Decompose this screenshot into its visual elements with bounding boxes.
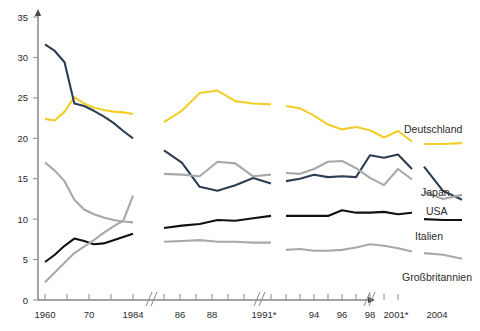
series-line-italien-seg3 (424, 219, 462, 220)
chart-canvas: 0 5 10 15 20 25 30 35 (0, 0, 480, 331)
series-line-usa-seg2 (286, 161, 412, 185)
series-line-usa-seg1 (164, 162, 271, 177)
series-line-grobritannien-seg3 (424, 253, 462, 259)
series-label-deutschland: Deutschland (404, 123, 463, 135)
y-tick-label-20: 20 (17, 133, 28, 144)
y-tick-label-35: 35 (17, 12, 28, 23)
x-tick-label-2001: 2001* (384, 309, 409, 320)
series-line-japan-seg0 (45, 44, 133, 138)
line-chart: 0 5 10 15 20 25 30 35 (0, 0, 480, 331)
axis-break-2-b (259, 292, 265, 306)
x-tick-label-1991: 1991* (252, 309, 277, 320)
series-label-usa: USA (426, 205, 448, 217)
series-line-japan-seg2 (286, 154, 412, 181)
axis-break-2-a (254, 292, 260, 306)
axis-break-1-a (146, 292, 152, 306)
x-axis: 1960 70 1984 86 88 1991* 94 96 98 2001* … (34, 292, 447, 320)
x-tick-label-1960: 1960 (34, 309, 55, 320)
series-label-japan: Japan (421, 186, 450, 198)
series-line-deutschland-seg2 (286, 106, 412, 142)
x-tick-label-1984: 1984 (122, 309, 143, 320)
series-line-deutschland-seg1 (164, 91, 271, 123)
y-axis-arrow-icon (35, 9, 41, 16)
series-line-deutschland-seg3 (424, 143, 462, 144)
x-tick-label-86: 86 (175, 309, 186, 320)
series-line-italien-seg0 (45, 234, 133, 262)
y-tick-label-30: 30 (17, 52, 28, 63)
series-line-italien-seg2 (286, 210, 412, 216)
series-line-italien-seg1 (164, 216, 271, 228)
series-label-grossbritannien: Großbritannien (402, 271, 472, 283)
y-tick-label-10: 10 (17, 214, 28, 225)
x-tick-label-88: 88 (207, 309, 218, 320)
series-line-japan-seg1 (164, 150, 271, 190)
x-tick-label-70: 70 (84, 309, 95, 320)
series-layer (45, 44, 462, 282)
series-label-italien: Italien (415, 230, 443, 242)
x-tick-label-2004: 2004 (426, 309, 447, 320)
y-tick-label-25: 25 (17, 92, 28, 103)
y-tick-label-0: 0 (23, 295, 28, 306)
series-line-grobritannien-seg1 (164, 240, 271, 242)
y-axis: 0 5 10 15 20 25 30 35 (17, 9, 41, 306)
x-tick-label-98: 98 (365, 309, 376, 320)
x-tick-label-96: 96 (337, 309, 348, 320)
series-line-grobritannien-seg2 (286, 244, 412, 251)
y-tick-label-5: 5 (23, 254, 28, 265)
series-line-usa-seg0 (45, 163, 133, 223)
x-tick-label-94: 94 (309, 309, 320, 320)
y-tick-label-15: 15 (17, 173, 28, 184)
axis-break-1-b (151, 292, 157, 306)
